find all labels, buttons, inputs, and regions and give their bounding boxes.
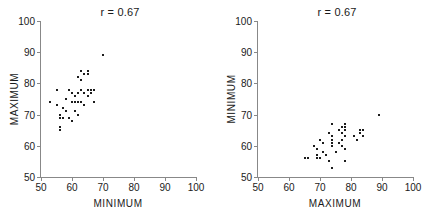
y-tick bbox=[254, 146, 258, 147]
y-tick-label: 90 bbox=[241, 47, 252, 58]
data-point bbox=[68, 89, 70, 91]
data-point bbox=[331, 135, 333, 137]
x-tick bbox=[72, 177, 73, 181]
data-point bbox=[80, 70, 82, 72]
x-tick-label: 90 bbox=[159, 182, 170, 193]
data-point bbox=[341, 145, 343, 147]
data-point bbox=[71, 120, 73, 122]
y-tick-label: 70 bbox=[24, 109, 35, 120]
data-point bbox=[56, 104, 58, 106]
data-point bbox=[90, 89, 92, 91]
data-point bbox=[71, 101, 73, 103]
x-axis-label-right: MAXIMUM bbox=[257, 198, 413, 209]
data-point bbox=[83, 73, 85, 75]
data-point bbox=[328, 132, 330, 134]
data-point bbox=[328, 160, 330, 162]
x-tick bbox=[258, 177, 259, 181]
data-point bbox=[331, 167, 333, 169]
data-point bbox=[74, 95, 76, 97]
x-tick bbox=[289, 177, 290, 181]
data-point bbox=[56, 89, 58, 91]
data-point bbox=[62, 117, 64, 119]
data-point bbox=[59, 117, 61, 119]
y-axis-label-left: MAXIMUM bbox=[9, 73, 20, 126]
data-point bbox=[80, 89, 82, 91]
y-tick bbox=[254, 21, 258, 22]
data-point bbox=[362, 135, 364, 137]
x-tick-label: 100 bbox=[188, 182, 205, 193]
data-point bbox=[341, 139, 343, 141]
data-point bbox=[316, 154, 318, 156]
y-tick-label: 100 bbox=[235, 16, 252, 27]
data-point bbox=[338, 129, 340, 131]
x-tick bbox=[134, 177, 135, 181]
panel-title-right: r = 0.67 bbox=[257, 6, 417, 18]
data-point bbox=[331, 142, 333, 144]
y-tick bbox=[37, 21, 41, 22]
data-point bbox=[87, 73, 89, 75]
x-tick-label: 90 bbox=[376, 182, 387, 193]
panel-title-left: r = 0.67 bbox=[40, 6, 200, 18]
data-point bbox=[344, 160, 346, 162]
x-tick-label: 50 bbox=[35, 182, 46, 193]
data-point bbox=[59, 129, 61, 131]
x-tick-label: 100 bbox=[405, 182, 422, 193]
data-point bbox=[335, 151, 337, 153]
data-point bbox=[77, 92, 79, 94]
y-tick bbox=[37, 52, 41, 53]
plot-area-right: 50607080901005060708090100 bbox=[257, 21, 413, 178]
data-point bbox=[77, 76, 79, 78]
data-point bbox=[359, 132, 361, 134]
data-point bbox=[87, 89, 89, 91]
data-point bbox=[359, 129, 361, 131]
y-tick-label: 70 bbox=[241, 109, 252, 120]
data-point bbox=[59, 114, 61, 116]
data-point bbox=[362, 129, 364, 131]
data-point bbox=[378, 114, 380, 116]
data-point bbox=[344, 148, 346, 150]
x-tick bbox=[41, 177, 42, 181]
data-point bbox=[319, 157, 321, 159]
data-point bbox=[65, 110, 67, 112]
data-point bbox=[71, 92, 73, 94]
data-points-left bbox=[41, 21, 196, 177]
y-tick bbox=[254, 83, 258, 84]
data-point bbox=[74, 110, 76, 112]
x-tick bbox=[351, 177, 352, 181]
scatter-panel-maximum-vs-minimum: r = 0.67 50607080901005060708090100 MAXI… bbox=[217, 0, 433, 222]
x-axis-label-left: MINIMUM bbox=[40, 198, 196, 209]
data-point bbox=[83, 92, 85, 94]
data-point bbox=[341, 132, 343, 134]
data-points-right bbox=[258, 21, 413, 177]
data-point bbox=[80, 101, 82, 103]
y-tick-label: 100 bbox=[18, 16, 35, 27]
scatter-plot-figure: r = 0.67 50607080901005060708090100 MINI… bbox=[0, 0, 433, 222]
data-point bbox=[322, 151, 324, 153]
data-point bbox=[59, 126, 61, 128]
data-point bbox=[304, 157, 306, 159]
data-point bbox=[87, 70, 89, 72]
data-point bbox=[62, 107, 64, 109]
data-point bbox=[90, 92, 92, 94]
y-tick bbox=[37, 146, 41, 147]
data-point bbox=[80, 79, 82, 81]
y-tick-label: 80 bbox=[241, 78, 252, 89]
data-point bbox=[344, 123, 346, 125]
data-point bbox=[313, 145, 315, 147]
data-point bbox=[353, 135, 355, 137]
data-point bbox=[74, 101, 76, 103]
data-point bbox=[49, 101, 51, 103]
y-tick-label: 60 bbox=[241, 140, 252, 151]
data-point bbox=[344, 135, 346, 137]
y-tick-label: 90 bbox=[24, 47, 35, 58]
data-point bbox=[344, 129, 346, 131]
x-tick-label: 50 bbox=[252, 182, 263, 193]
plot-area-left: 50607080901005060708090100 bbox=[40, 21, 196, 178]
data-point bbox=[331, 123, 333, 125]
y-tick-label: 80 bbox=[24, 78, 35, 89]
data-point bbox=[322, 142, 324, 144]
y-tick bbox=[254, 115, 258, 116]
data-point bbox=[87, 95, 89, 97]
x-tick bbox=[382, 177, 383, 181]
x-tick-label: 80 bbox=[345, 182, 356, 193]
